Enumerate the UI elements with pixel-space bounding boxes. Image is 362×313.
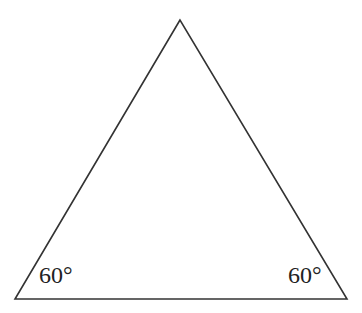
angle-label-bottom-left: 60° <box>39 262 73 288</box>
angle-label-bottom-right: 60° <box>288 262 322 288</box>
triangle-diagram: 60° 60° <box>0 0 362 313</box>
triangle <box>15 20 347 299</box>
